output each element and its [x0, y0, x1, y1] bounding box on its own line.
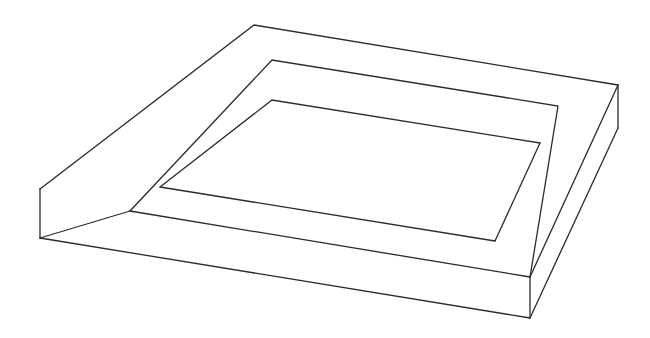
- inner-back-edge: [160, 100, 540, 187]
- outer-bottom-front-edge: [40, 238, 530, 318]
- isometric-frame-diagram: [0, 0, 650, 338]
- middle-rim-edge: [130, 60, 558, 277]
- middle-front-edge: [130, 211, 530, 277]
- outer-top-rim-edge: [40, 25, 618, 189]
- inner-front-edge: [160, 187, 495, 241]
- middle-left-connector-edge: [40, 211, 130, 238]
- outer-right-top-edge: [530, 85, 618, 277]
- outer-right-bottom-edge: [530, 128, 618, 318]
- inner-right-edge: [495, 143, 540, 241]
